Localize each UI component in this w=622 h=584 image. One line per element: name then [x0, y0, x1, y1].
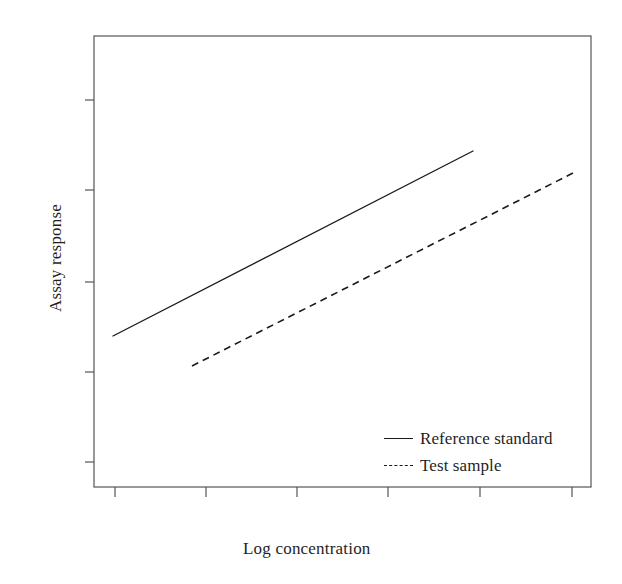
x-axis-title: Log concentration: [243, 539, 443, 559]
legend-item-reference-standard: Reference standard: [384, 425, 584, 452]
y-axis-title: Assay response: [46, 158, 66, 358]
x-axis-ticks: [115, 487, 572, 497]
legend-key-solid-line-icon: [384, 438, 413, 440]
y-axis-ticks: [85, 100, 94, 462]
assay-response-line-chart: [0, 0, 622, 584]
legend-label-reference-standard: Reference standard: [420, 425, 553, 452]
plot-panel-background: [94, 36, 591, 487]
figure-container: Assay response Log concentration Referen…: [0, 0, 622, 584]
legend-key-dashed-line-icon: [384, 465, 413, 467]
chart-legend: Reference standard Test sample: [384, 425, 584, 479]
legend-label-test-sample: Test sample: [420, 452, 502, 479]
legend-item-test-sample: Test sample: [384, 452, 584, 479]
